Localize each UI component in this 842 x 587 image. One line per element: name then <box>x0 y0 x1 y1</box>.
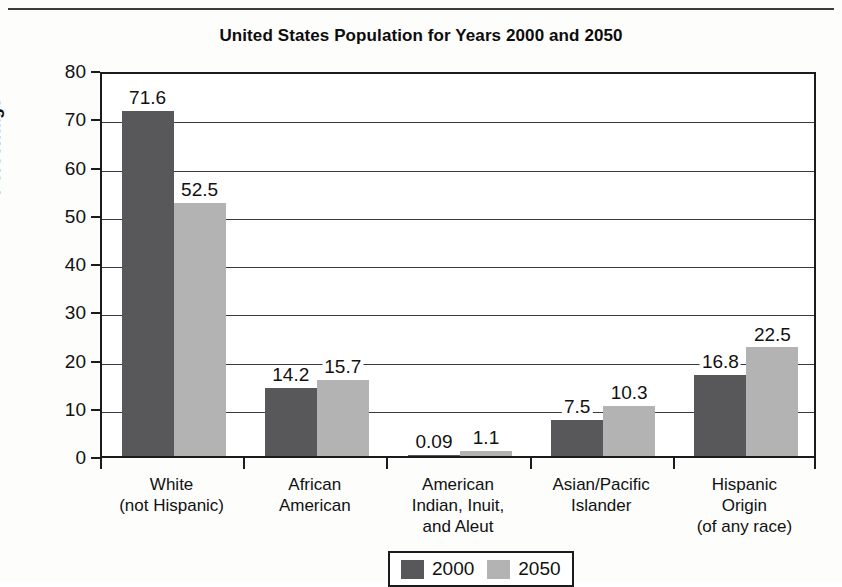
x-axis-ticks <box>100 458 816 470</box>
bar-value-label: 71.6 <box>127 88 168 108</box>
bar-2000: 71.6 <box>122 111 174 456</box>
x-axis-category-line: Indian, Inuit, <box>386 495 529 516</box>
x-axis-category-label: White(not Hispanic) <box>100 474 243 516</box>
bar-2050: 22.5 <box>746 347 798 456</box>
x-axis-tick-mark <box>673 458 675 469</box>
y-axis-tick-mark <box>91 216 100 218</box>
legend-item-2050: 2050 <box>487 558 560 580</box>
bar-value-label: 52.5 <box>179 180 220 200</box>
y-axis-ticks <box>0 72 110 458</box>
x-axis-category-line: Origin <box>673 495 816 516</box>
bar-2000: 14.2 <box>265 388 317 457</box>
bar-2050: 10.3 <box>603 406 655 456</box>
x-axis-category-label: HispanicOrigin(of any race) <box>673 474 816 537</box>
x-axis-category-line: (of any race) <box>673 516 816 537</box>
legend-label: 2000 <box>432 558 474 580</box>
x-axis-category-line: African <box>243 474 386 495</box>
page-top-rule <box>8 8 834 10</box>
x-axis-category-label: Asian/PacificIslander <box>530 474 673 516</box>
x-axis-tick-mark <box>530 458 532 469</box>
bar-group: 71.652.5 <box>122 74 226 456</box>
legend-item-2000: 2000 <box>401 558 474 580</box>
bar-value-label: 22.5 <box>752 325 793 345</box>
x-axis-category-line: (not Hispanic) <box>100 495 243 516</box>
y-axis-tick-mark <box>91 361 100 363</box>
chart-legend: 20002050 <box>388 551 574 587</box>
plot-area: 71.652.514.215.70.091.17.510.316.822.5 <box>100 72 816 458</box>
legend-swatch-icon <box>401 560 424 579</box>
chart-title: United States Population for Years 2000 … <box>0 26 842 46</box>
bar-value-label: 16.8 <box>700 352 741 372</box>
bar-value-label: 15.7 <box>322 357 363 377</box>
bar-2050: 15.7 <box>317 380 369 456</box>
x-axis-category-label: AmericanIndian, Inuit,and Aleut <box>386 474 529 537</box>
x-axis-category-line: Islander <box>530 495 673 516</box>
y-axis-tick-mark <box>91 409 100 411</box>
bar-2000: 16.8 <box>694 375 746 456</box>
y-axis-tick-mark <box>91 264 100 266</box>
bar-2050: 1.1 <box>460 451 512 456</box>
bar-group: 14.215.7 <box>265 74 369 456</box>
x-axis-tick-mark <box>386 458 388 469</box>
bar-2000: 7.5 <box>551 420 603 456</box>
y-axis-tick-mark <box>91 457 100 459</box>
y-axis-tick-mark <box>91 119 100 121</box>
bar-2000: 0.09 <box>408 455 460 456</box>
x-axis-category-labels: White(not Hispanic)AfricanAmericanAmeric… <box>100 474 816 544</box>
x-axis-category-line: American <box>386 474 529 495</box>
bar-value-label: 14.2 <box>270 365 311 385</box>
bar-group: 7.510.3 <box>551 74 655 456</box>
x-axis-category-label: AfricanAmerican <box>243 474 386 516</box>
bar-2050: 52.5 <box>174 203 226 456</box>
bar-group: 0.091.1 <box>408 74 512 456</box>
x-axis-category-line: American <box>243 495 386 516</box>
bar-value-label: 10.3 <box>609 383 650 403</box>
x-axis-tick-mark <box>814 458 816 469</box>
x-axis-category-line: and Aleut <box>386 516 529 537</box>
x-axis-category-line: Hispanic <box>673 474 816 495</box>
x-axis-tick-mark <box>243 458 245 469</box>
bar-value-label: 7.5 <box>562 397 592 417</box>
x-axis-category-line: Asian/Pacific <box>530 474 673 495</box>
x-axis-category-line: White <box>100 474 243 495</box>
legend-label: 2050 <box>518 558 560 580</box>
legend-swatch-icon <box>487 560 510 579</box>
x-axis-tick-mark <box>100 458 102 469</box>
y-axis-tick-mark <box>91 312 100 314</box>
bar-value-label: 0.09 <box>414 432 455 452</box>
bar-group: 16.822.5 <box>694 74 798 456</box>
y-axis-tick-mark <box>91 71 100 73</box>
y-axis-tick-mark <box>91 168 100 170</box>
bar-value-label: 1.1 <box>471 428 501 448</box>
